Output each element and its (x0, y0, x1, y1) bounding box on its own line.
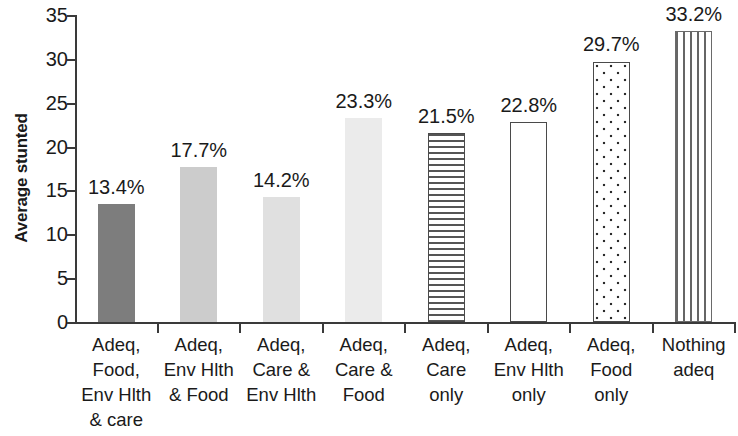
y-axis-tick-mark (67, 59, 75, 61)
x-axis-category-label-line: Adeq, (323, 332, 406, 357)
x-axis-category-label-line: adeq (653, 357, 736, 382)
x-axis-category-label: Adeq,Env Hlth& Food (158, 332, 241, 407)
bar (510, 122, 547, 322)
x-axis-category-label-line: Food (323, 382, 406, 407)
bar (98, 204, 135, 322)
x-axis-category-label: Nothingadeq (653, 332, 736, 382)
y-axis-tick-mark (67, 278, 75, 280)
y-axis-tick-mark (67, 15, 75, 17)
x-axis-category-label-line: Nothing (653, 332, 736, 357)
x-axis-category-label-line: Env Hlth (75, 382, 158, 407)
x-axis-category-label-line: Adeq, (488, 332, 571, 357)
y-axis-tick-label: 0 (34, 312, 68, 332)
y-axis-title: Average stunted (12, 98, 32, 258)
x-axis-category-label-line: only (488, 382, 571, 407)
x-axis-category-label-line: only (405, 382, 488, 407)
x-axis-category-label-line: only (570, 382, 653, 407)
bar-value-label: 13.4% (71, 177, 161, 197)
x-axis-category-label-line: Adeq, (75, 332, 158, 357)
bar-chart: Average stunted 35302520151050 13.4%17.7… (0, 0, 738, 436)
x-axis-category-label-line: Care (405, 357, 488, 382)
bar (263, 197, 300, 322)
x-axis-category-label: Adeq,Care &Food (323, 332, 406, 407)
x-axis-category-label-line: Adeq, (570, 332, 653, 357)
x-axis-category-label-line: Adeq, (158, 332, 241, 357)
y-axis-tick-mark (67, 322, 75, 324)
bar-value-label: 33.2% (649, 4, 738, 24)
y-axis-tick-mark (67, 103, 75, 105)
bar-value-label: 17.7% (154, 140, 244, 160)
x-axis-category-label-line: Env Hlth (240, 382, 323, 407)
x-axis-category-label: Adeq,Care &Env Hlth (240, 332, 323, 407)
y-axis-tick-labels: 35302520151050 (30, 0, 68, 436)
x-axis-category-label-line: Food (570, 357, 653, 382)
y-axis-tick-label: 30 (34, 49, 68, 69)
bar (428, 133, 465, 322)
bar-value-label: 23.3% (319, 91, 409, 111)
y-axis-tick-mark (67, 234, 75, 236)
bar-value-label: 21.5% (401, 106, 491, 126)
x-axis-category-label: Adeq,Careonly (405, 332, 488, 407)
y-axis-line (75, 15, 77, 324)
y-axis-tick-label: 5 (34, 268, 68, 288)
bar-value-label: 22.8% (484, 95, 574, 115)
x-axis-category-label-line: Adeq, (405, 332, 488, 357)
bar (345, 118, 382, 322)
x-axis-category-label-line: Care & (323, 357, 406, 382)
bar-value-label: 29.7% (566, 34, 656, 54)
x-axis-category-labels: Adeq,Food,Env Hlth& careAdeq,Env Hlth& F… (75, 332, 735, 436)
x-axis-category-label: Adeq,Env Hlthonly (488, 332, 571, 407)
y-axis-tick-label: 15 (34, 180, 68, 200)
x-axis-category-label-line: Adeq, (240, 332, 323, 357)
plot-area: 13.4%17.7%14.2%23.3%21.5%22.8%29.7%33.2% (75, 15, 735, 323)
y-axis-tick-label: 10 (34, 224, 68, 244)
x-axis-category-label: Adeq,Foodonly (570, 332, 653, 407)
x-axis-category-label-line: Care & (240, 357, 323, 382)
x-axis-category-label-line: Env Hlth (158, 357, 241, 382)
y-axis-tick-label: 35 (34, 5, 68, 25)
x-axis-category-label-line: & care (75, 407, 158, 432)
y-axis-tick-label: 25 (34, 93, 68, 113)
bar (675, 31, 712, 322)
x-axis-category-label-line: Env Hlth (488, 357, 571, 382)
x-axis-category-label-line: Food, (75, 357, 158, 382)
y-axis-tick-mark (67, 147, 75, 149)
bar (593, 62, 630, 323)
x-axis-category-label-line: & Food (158, 382, 241, 407)
bar (180, 167, 217, 322)
bar-value-label: 14.2% (236, 170, 326, 190)
x-axis-category-label: Adeq,Food,Env Hlth& care (75, 332, 158, 432)
y-axis-tick-label: 20 (34, 137, 68, 157)
